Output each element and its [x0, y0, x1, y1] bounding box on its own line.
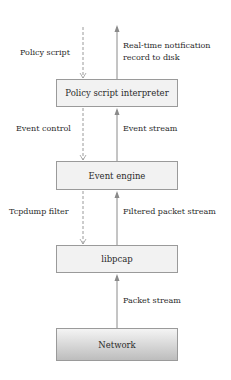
label-notification-line1: Real-time notification	[123, 40, 211, 51]
label-policy-script: Policy script	[20, 47, 70, 58]
box-label: Event engine	[89, 171, 146, 181]
label-event-control: Event control	[16, 123, 71, 134]
label-notification-line2: record to disk	[123, 52, 180, 63]
box-policy-script-interpreter: Policy script interpreter	[56, 79, 178, 107]
box-network: Network	[56, 328, 178, 361]
label-tcpdump-filter: Tcpdump filter	[9, 206, 69, 217]
label-packet-stream: Packet stream	[123, 295, 181, 306]
box-label: Policy script interpreter	[65, 88, 168, 98]
label-filtered-packet-stream: Filtered packet stream	[123, 206, 216, 217]
box-label: libpcap	[101, 254, 133, 264]
box-event-engine: Event engine	[56, 161, 178, 190]
box-libpcap: libpcap	[56, 245, 178, 273]
label-event-stream: Event stream	[123, 123, 177, 134]
box-label: Network	[98, 340, 136, 350]
